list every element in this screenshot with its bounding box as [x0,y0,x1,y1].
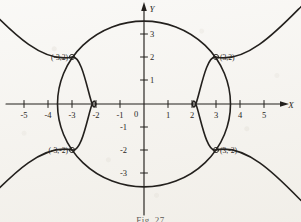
y-tick-label--1: -1 [120,122,127,132]
x-tick-label--5: -5 [20,110,27,120]
x-tick-label--4: -4 [44,110,52,120]
y-tick-label-3: 3 [150,29,154,39]
x-tick-label-3: 3 [214,110,218,120]
x-tick-label-2: 2 [190,110,194,120]
origin-label: 0 [134,109,138,119]
figure-container: -5 -4 -3 -2 -1 1 2 3 4 5 3 2 1 -1 -2 -3 … [0,0,301,222]
point-label--3--2: (-3,-2) [48,146,68,155]
point-label-3--2: (3,-2) [220,146,238,155]
x-tick-label--3: -3 [68,110,75,120]
y-axis-label: Y [149,4,155,14]
x-tick-label-5: 5 [262,110,266,120]
x-tick-label-4: 4 [238,110,243,120]
x-tick-label--2: -2 [92,110,99,120]
y-axis-arrowhead [141,2,147,11]
y-tick-label--3: -3 [120,168,127,178]
y-tick-label--2: -2 [120,145,127,155]
x-tick-label--1: -1 [116,110,123,120]
coordinate-plot: -5 -4 -3 -2 -1 1 2 3 4 5 3 2 1 -1 -2 -3 … [0,0,301,222]
point-label-3-2: (3,2) [220,53,235,62]
figure-caption: Fig. 27 [0,215,301,222]
point-label--3-2: (-3,2) [51,53,69,62]
y-tick-label-2: 2 [150,52,154,62]
x-axis-label: X [287,100,294,110]
y-tick-label-1: 1 [150,75,154,85]
x-tick-label-1: 1 [166,110,170,120]
